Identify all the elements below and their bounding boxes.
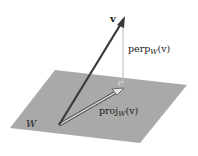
- label-perp: perpW(v): [128, 43, 170, 56]
- label-plane-w: W: [26, 118, 37, 129]
- label-v: v: [109, 13, 117, 24]
- projection-diagram: v perpW(v) projW(v) W: [0, 0, 198, 156]
